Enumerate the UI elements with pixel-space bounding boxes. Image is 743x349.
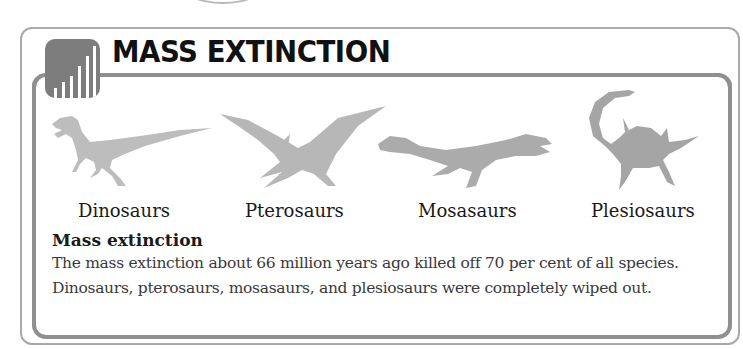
creature-label-pterosaurs: Pterosaurs bbox=[245, 200, 344, 221]
mosasaur-silhouette-icon bbox=[376, 130, 556, 192]
creature-label-dinosaurs: Dinosaurs bbox=[78, 200, 170, 221]
decorative-ellipse bbox=[178, 0, 268, 4]
body-text-line: The mass extinction about 66 million yea… bbox=[52, 254, 679, 272]
header-divider bbox=[100, 73, 720, 77]
bar-chart-icon bbox=[45, 39, 100, 98]
page-title: MASS EXTINCTION bbox=[112, 34, 390, 69]
section-heading: Mass extinction bbox=[52, 230, 203, 250]
pterosaur-silhouette-icon bbox=[218, 104, 388, 192]
plesiosaur-silhouette-icon bbox=[585, 88, 705, 192]
body-text-line: Dinosaurs, pterosaurs, mosasaurs, and pl… bbox=[52, 279, 652, 297]
creature-label-mosasaurs: Mosasaurs bbox=[418, 200, 517, 221]
dinosaur-silhouette-icon bbox=[50, 112, 215, 192]
creature-label-plesiosaurs: Plesiosaurs bbox=[591, 200, 695, 221]
